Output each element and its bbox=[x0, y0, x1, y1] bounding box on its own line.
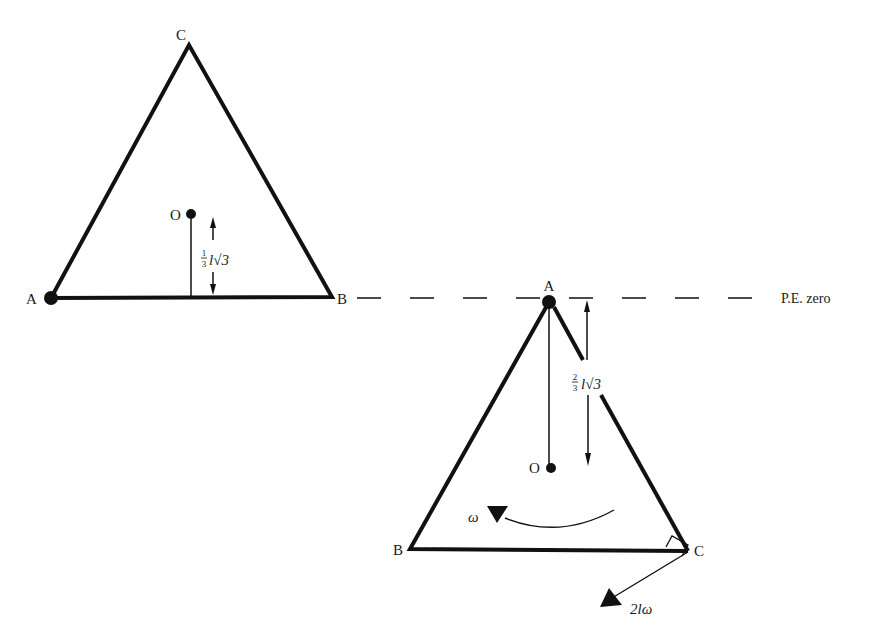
velocity-arrowhead-icon bbox=[600, 588, 622, 607]
velocity-vector-line bbox=[612, 552, 688, 598]
pe-zero-reference-line: P.E. zero bbox=[357, 291, 830, 306]
left-height-fraction-num: 1 bbox=[202, 248, 207, 258]
left-pivot-a-dot bbox=[44, 291, 58, 305]
right-triangle: A B C O 2 3 l√3 ω 2lω bbox=[393, 278, 704, 617]
left-triangle: C A B O 1 3 l√3 bbox=[26, 27, 347, 307]
angular-velocity-arc bbox=[505, 510, 614, 527]
physics-diagram: C A B O 1 3 l√3 P.E. zero bbox=[0, 0, 872, 641]
right-height-fraction-den: 3 bbox=[573, 383, 578, 393]
angular-velocity-label: ω bbox=[468, 509, 479, 525]
left-vertex-b-label: B bbox=[337, 291, 347, 307]
left-height-label: 1 3 l√3 bbox=[201, 248, 229, 269]
right-vertex-c-label: C bbox=[694, 543, 704, 559]
right-height-fraction-num: 2 bbox=[573, 372, 578, 382]
right-vertex-b-label: B bbox=[393, 542, 403, 558]
right-height-expression: l√3 bbox=[581, 376, 601, 392]
left-vertex-a-label: A bbox=[26, 291, 37, 307]
left-centroid-o-dot bbox=[186, 209, 196, 219]
right-dimension-up-arrow-icon bbox=[584, 300, 590, 312]
left-dimension-up-arrow-icon bbox=[210, 217, 216, 228]
angular-velocity-arrowhead-icon bbox=[487, 506, 508, 523]
right-centroid-o-dot bbox=[546, 463, 556, 473]
left-height-fraction-den: 3 bbox=[202, 259, 207, 269]
right-vertex-a-label: A bbox=[544, 278, 555, 294]
right-height-label: 2 3 l√3 bbox=[572, 372, 601, 393]
right-triangle-edge-ca-lower bbox=[601, 395, 688, 551]
right-centroid-o-label: O bbox=[529, 460, 540, 476]
diagram-canvas: C A B O 1 3 l√3 P.E. zero bbox=[0, 0, 872, 641]
right-dimension-down-arrow-icon bbox=[585, 453, 591, 466]
left-height-expression: l√3 bbox=[209, 252, 229, 268]
left-dimension-down-arrow-icon bbox=[210, 284, 216, 295]
left-centroid-o-label: O bbox=[170, 207, 181, 223]
left-vertex-c-label: C bbox=[176, 27, 186, 43]
right-triangle-edge-ca-upper bbox=[554, 307, 583, 360]
velocity-label: 2lω bbox=[630, 601, 652, 617]
pe-zero-label: P.E. zero bbox=[781, 291, 830, 306]
